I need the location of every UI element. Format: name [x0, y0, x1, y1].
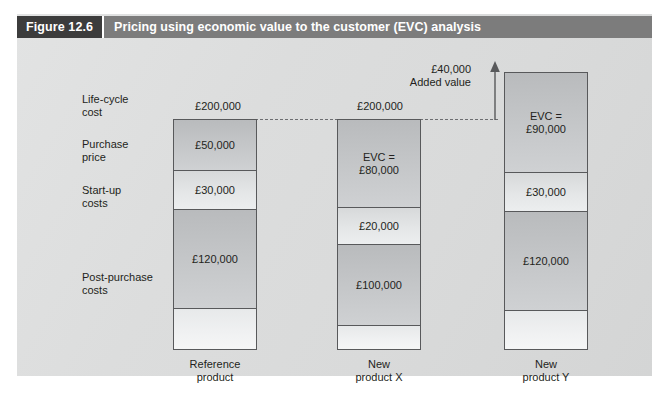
bar-segment-base-y [504, 310, 588, 350]
figure-panel: Figure 12.6 Pricing using economic value… [17, 14, 652, 376]
added-value-label: £40,000 Added value [399, 63, 471, 89]
axis-label-new-product-x: New product X [317, 358, 441, 384]
figure-number: Figure 12.6 [17, 16, 102, 38]
bar-segment-start-up-costs-x: £20,000 [337, 207, 421, 245]
bar-new-product-y: EVC = £90,000 £30,000 £120,000 [504, 72, 588, 350]
chart-plot-area: Life-cycle cost Purchase price Start-up … [17, 38, 652, 376]
figure-title: Pricing using economic value to the cust… [102, 16, 652, 38]
row-label-life-cycle-cost: Life-cycle cost [82, 93, 128, 119]
bar-segment-evc-x: EVC = £80,000 [337, 119, 421, 208]
bar-segment-start-up-costs: £30,000 [173, 170, 257, 210]
up-arrow-icon [484, 60, 506, 122]
bar-segment-base-reference [173, 308, 257, 350]
bar-reference-product: £50,000 £30,000 £120,000 [173, 119, 257, 350]
figure-header: Figure 12.6 Pricing using economic value… [17, 16, 652, 38]
bar-new-product-x: EVC = £80,000 £20,000 £100,000 [337, 119, 421, 350]
row-label-post-purchase-costs: Post-purchase costs [82, 271, 153, 297]
bar-segment-post-purchase-costs-y: £120,000 [504, 211, 588, 311]
bar-segment-post-purchase-costs-x: £100,000 [337, 244, 421, 326]
bar-segment-purchase-price: £50,000 [173, 119, 257, 171]
bar-total-new-product-x: £200,000 [315, 100, 445, 112]
bar-segment-base-x [337, 325, 421, 350]
axis-label-reference-product: Reference product [153, 358, 277, 384]
row-label-start-up-costs: Start-up costs [82, 184, 121, 210]
bar-segment-evc-y: EVC = £90,000 [504, 72, 588, 173]
bar-segment-post-purchase-costs: £120,000 [173, 209, 257, 309]
bar-total-reference-product: £200,000 [153, 100, 283, 112]
bar-segment-start-up-costs-y: £30,000 [504, 172, 588, 212]
axis-label-new-product-y: New product Y [484, 358, 608, 384]
row-label-purchase-price: Purchase price [82, 138, 128, 164]
